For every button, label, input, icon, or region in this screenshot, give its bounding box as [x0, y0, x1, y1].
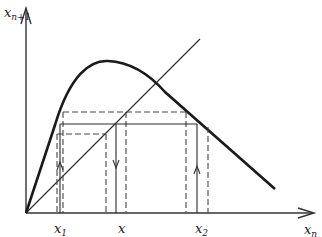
axes	[21, 8, 314, 218]
tick-label-x2-sub: 2	[202, 228, 208, 237]
tick-label-x1: x1	[54, 222, 67, 237]
x-axis-label-sub: n	[311, 229, 317, 237]
map-curve	[26, 61, 275, 213]
x-axis-label: xn	[304, 223, 317, 237]
dashed-orbit-outer	[63, 112, 186, 213]
tick-label-x2: x2	[195, 222, 208, 237]
dashed-orbit-inner	[57, 127, 208, 213]
cobweb-diagram	[0, 0, 322, 237]
tick-label-x-main: x	[118, 221, 125, 236]
solid-orbit	[57, 124, 200, 213]
tick-label-x1-sub: 1	[61, 228, 67, 237]
diagonal-line	[26, 39, 200, 213]
y-axis-label-sub: n+1	[11, 12, 30, 22]
y-axis-label: xn+1	[4, 6, 30, 22]
tick-label-x: x	[118, 222, 125, 235]
